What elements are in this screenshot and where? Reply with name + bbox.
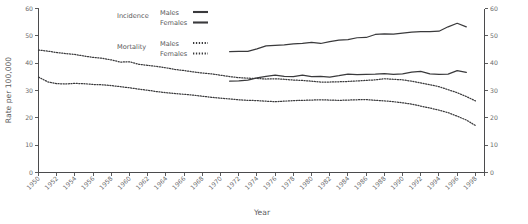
x-tick-label: 1994 <box>425 175 441 191</box>
series-line-incidence-males <box>230 23 467 51</box>
x-tick-label: 1992 <box>407 175 423 191</box>
right-y-tick-label: 0 <box>490 169 494 176</box>
x-tick-label: 1966 <box>171 175 187 191</box>
right-y-tick-label: 40 <box>490 59 498 66</box>
tick-marks-group <box>35 9 487 176</box>
series-line-incidence-females <box>230 71 467 82</box>
x-tick-label: 1952 <box>43 175 59 191</box>
x-tick-label: 1988 <box>371 175 387 191</box>
axis-frame <box>39 9 485 173</box>
y-tick-label: 30 <box>25 87 33 94</box>
x-tick-label: 1958 <box>98 175 114 191</box>
x-tick-label: 1990 <box>389 175 405 191</box>
series-line-mortality-females <box>39 77 476 125</box>
y-tick-label: 0 <box>29 169 33 176</box>
line-chart: 0102030405060 0102030405060 195019521954… <box>0 0 528 224</box>
x-tick-label: 1970 <box>207 175 223 191</box>
x-tick-label: 1956 <box>80 175 96 191</box>
axes-group <box>39 9 485 173</box>
x-tick-label: 1960 <box>116 175 132 191</box>
x-tick-label: 1974 <box>243 175 259 191</box>
legend-entry-label: Females <box>160 19 188 27</box>
right-y-axis-tick-labels: 0102030405060 <box>490 5 498 176</box>
x-tick-label: 1984 <box>334 175 350 191</box>
x-tick-label: 1998 <box>462 175 478 191</box>
x-tick-label: 1972 <box>225 175 241 191</box>
y-tick-label: 40 <box>25 59 33 66</box>
x-tick-label: 1962 <box>134 175 150 191</box>
chart-container: 0102030405060 0102030405060 195019521954… <box>0 0 528 224</box>
right-y-tick-label: 50 <box>490 32 498 39</box>
x-tick-label: 1950 <box>25 175 41 191</box>
y-axis-tick-labels: 0102030405060 <box>25 5 33 176</box>
y-tick-label: 60 <box>25 5 33 12</box>
legend-entry-label: Males <box>160 40 180 48</box>
x-tick-label: 1980 <box>298 175 314 191</box>
y-tick-label: 10 <box>25 141 33 148</box>
data-series-group <box>39 23 476 125</box>
x-tick-label: 1986 <box>353 175 369 191</box>
x-tick-label: 1968 <box>189 175 205 191</box>
right-y-tick-label: 10 <box>490 141 498 148</box>
y-tick-label: 20 <box>25 114 33 121</box>
right-y-tick-label: 20 <box>490 114 498 121</box>
right-y-tick-label: 30 <box>490 87 498 94</box>
x-tick-label: 1976 <box>262 175 278 191</box>
x-axis-title: Year <box>253 208 271 217</box>
y-axis-title: Rate per 100,000 <box>4 57 13 123</box>
x-tick-label: 1954 <box>61 175 77 191</box>
x-tick-label: 1982 <box>316 175 332 191</box>
legend-group-label-incidence: Incidence <box>117 12 149 20</box>
x-tick-label: 1978 <box>280 175 296 191</box>
x-tick-label: 1996 <box>444 175 460 191</box>
legend-group-label-mortality: Mortality <box>117 43 146 51</box>
legend-entry-label: Males <box>160 9 180 17</box>
x-axis-tick-labels: 1950195219541956195819601962196419661968… <box>25 175 478 191</box>
legend-entry-label: Females <box>160 50 188 58</box>
right-y-tick-label: 60 <box>490 5 498 12</box>
x-tick-label: 1964 <box>152 175 168 191</box>
y-tick-label: 50 <box>25 32 33 39</box>
chart-legend: IncidenceMalesFemalesMortalityMalesFemal… <box>117 9 208 59</box>
series-line-mortality-males <box>39 50 476 101</box>
